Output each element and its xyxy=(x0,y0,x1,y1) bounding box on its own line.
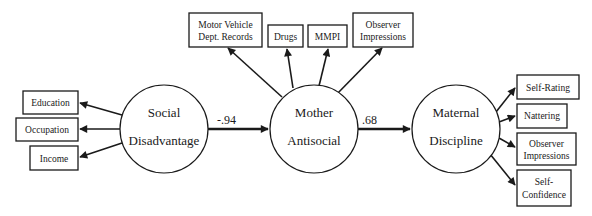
path-coefficient: .68 xyxy=(362,113,377,127)
indicator-arrow-icon xyxy=(490,154,515,185)
indicator-arrow-icon xyxy=(499,138,515,147)
indicator-box-observer-impressions-mother: Observer Impressions xyxy=(353,13,413,47)
indicator-arrow-icon xyxy=(228,48,282,97)
node-label-line1: Maternal xyxy=(433,105,480,120)
indicator-label: Nattering xyxy=(524,111,560,121)
node-label-line1: Mother xyxy=(295,105,334,120)
indicator-label-line1: Observer xyxy=(366,20,402,30)
node-label-line2: Antisocial xyxy=(287,133,341,148)
node-label-line1: Social xyxy=(148,105,181,120)
indicator-label: Income xyxy=(40,154,69,164)
indicator-label-line1: Observer xyxy=(529,139,565,149)
latent-node-social-disadvantage: Social Disadvantage xyxy=(120,85,208,173)
indicator-box-income: Income xyxy=(30,146,78,170)
indicator-arrow-icon xyxy=(335,48,382,96)
indicator-label: MMPI xyxy=(315,32,340,42)
node-label-line2: Discipline xyxy=(429,133,483,148)
structural-path-mother-to-discipline: .68 xyxy=(358,113,410,129)
indicator-arrow-icon xyxy=(80,143,122,157)
indicator-box-mmpi: MMPI xyxy=(308,25,347,47)
indicator-label-line2: Impressions xyxy=(360,32,406,42)
indicator-box-self-rating: Self-Rating xyxy=(517,75,579,99)
indicator-arrow-icon xyxy=(287,49,293,88)
indicator-label-line2: Dept. Records xyxy=(198,32,253,42)
indicator-arrow-icon xyxy=(496,88,515,112)
indicator-box-self-confidence: Self- Confidence xyxy=(517,170,571,206)
indicator-arrow-icon xyxy=(319,49,328,86)
indicator-box-observer-impressions-discipline: Observer Impressions xyxy=(517,133,576,165)
sem-diagram: -.94 .68 Social Disadvantage Mother Anti… xyxy=(0,0,592,216)
node-label-line2: Disadvantage xyxy=(129,133,200,148)
indicator-label: Drugs xyxy=(274,32,298,42)
structural-path-social-to-mother: -.94 xyxy=(208,113,268,129)
path-coefficient: -.94 xyxy=(217,113,236,127)
indicator-box-nattering: Nattering xyxy=(517,104,567,128)
indicator-label-line1: Motor Vehicle xyxy=(198,20,252,30)
indicator-label-line2: Impressions xyxy=(524,151,570,161)
indicator-label: Self-Rating xyxy=(526,83,570,93)
indicator-box-occupation: Occupation xyxy=(16,118,78,141)
indicator-box-education: Education xyxy=(23,91,78,114)
indicator-arrow-icon xyxy=(499,116,515,122)
latent-node-maternal-discipline: Maternal Discipline xyxy=(412,85,500,173)
indicator-box-motor-vehicle-records: Motor Vehicle Dept. Records xyxy=(189,13,262,47)
indicator-label: Occupation xyxy=(25,125,69,135)
indicator-label-line2: Confidence xyxy=(522,190,566,200)
indicator-arrow-icon xyxy=(80,103,122,115)
indicator-box-drugs: Drugs xyxy=(268,25,303,47)
latent-node-mother-antisocial: Mother Antisocial xyxy=(270,85,358,173)
indicator-label: Education xyxy=(31,98,70,108)
indicator-label-line1: Self- xyxy=(535,177,553,187)
indicator-edges-social xyxy=(80,103,122,157)
